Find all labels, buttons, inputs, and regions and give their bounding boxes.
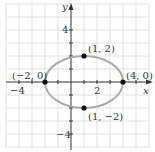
x-tick-label-neg4: −4	[10, 85, 25, 96]
point-1-2	[81, 53, 86, 58]
x-tick-label-2: 2	[94, 85, 100, 96]
y-tick-label-4: 4	[62, 24, 68, 35]
point-1-neg2	[81, 105, 86, 110]
y-axis-label: y	[61, 1, 68, 12]
ellipse-diagram: (1, 2) (−2, 0) (4, 0) (1, −2) −4 2 4 −4 …	[0, 0, 155, 152]
point-4-0	[120, 79, 125, 84]
label-point-1-2: (1, 2)	[88, 43, 115, 54]
label-point-neg2-0: (−2, 0)	[12, 70, 47, 81]
y-tick-label-neg4: −4	[56, 129, 71, 140]
label-point-1-neg2: (1, −2)	[88, 111, 123, 122]
x-axis-label: x	[143, 85, 149, 96]
label-point-4-0: (4, 0)	[126, 70, 153, 81]
